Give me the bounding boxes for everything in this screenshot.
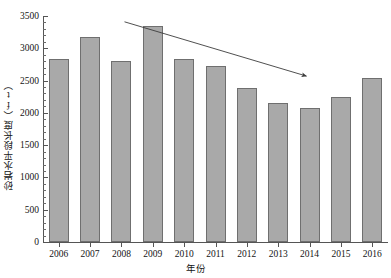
x-axis-tick bbox=[310, 243, 311, 247]
bar bbox=[362, 78, 382, 242]
x-axis-tick-label: 2011 bbox=[206, 249, 225, 259]
y-axis-minor-tick bbox=[43, 74, 46, 75]
x-axis-tick-label: 2008 bbox=[112, 249, 131, 259]
x-axis-tick bbox=[247, 243, 248, 247]
y-axis-minor-tick bbox=[43, 132, 46, 133]
bar bbox=[143, 26, 163, 242]
y-axis-minor-tick bbox=[43, 152, 46, 153]
bar bbox=[111, 61, 131, 242]
x-axis-tick bbox=[184, 243, 185, 247]
y-axis-tick-label: 3500 bbox=[20, 11, 39, 21]
x-axis-tick-label: 2016 bbox=[363, 249, 382, 259]
bar bbox=[268, 103, 288, 242]
y-axis-tick bbox=[43, 145, 48, 146]
x-axis-tick bbox=[278, 243, 279, 247]
bar bbox=[206, 66, 226, 242]
x-axis-tick bbox=[90, 243, 91, 247]
bar bbox=[80, 37, 100, 242]
bar bbox=[174, 59, 194, 242]
y-axis-minor-tick bbox=[43, 190, 46, 191]
y-axis-minor-tick bbox=[43, 68, 46, 69]
bar-chart: 砂岩水平段长度（ft） 0500100015002000250030003500… bbox=[0, 0, 391, 278]
y-axis-tick-label: 0 bbox=[34, 237, 39, 247]
y-axis-minor-tick bbox=[43, 165, 46, 166]
x-axis-tick-label: 2007 bbox=[81, 249, 100, 259]
x-axis-tick bbox=[153, 243, 154, 247]
y-axis-minor-tick bbox=[43, 93, 46, 94]
x-axis-tick bbox=[59, 243, 60, 247]
bar bbox=[331, 97, 351, 242]
x-axis-title: 年份 bbox=[0, 261, 391, 275]
y-axis-minor-tick bbox=[43, 61, 46, 62]
y-axis-tick-label: 2500 bbox=[20, 76, 39, 86]
x-axis-tick-label: 2012 bbox=[237, 249, 256, 259]
y-axis-minor-tick bbox=[43, 106, 46, 107]
x-axis-tick-label: 2015 bbox=[331, 249, 350, 259]
y-axis-tick-label: 1500 bbox=[20, 140, 39, 150]
y-axis-tick-label: 3000 bbox=[20, 43, 39, 53]
y-axis-minor-tick bbox=[43, 216, 46, 217]
x-axis-tick-label: 2006 bbox=[49, 249, 68, 259]
y-axis-minor-tick bbox=[43, 119, 46, 120]
y-axis-minor-tick bbox=[43, 42, 46, 43]
y-axis-minor-tick bbox=[43, 22, 46, 23]
y-axis-tick-label: 1000 bbox=[20, 172, 39, 182]
y-axis-minor-tick bbox=[43, 100, 46, 101]
y-axis-tick-label: 500 bbox=[25, 205, 39, 215]
x-axis-tick bbox=[341, 243, 342, 247]
x-axis-tick bbox=[372, 243, 373, 247]
y-axis-tick bbox=[43, 48, 48, 49]
x-axis-tick bbox=[216, 243, 217, 247]
y-axis-tick-labels: 0500100015002000250030003500 bbox=[0, 0, 39, 278]
y-axis-minor-tick bbox=[43, 184, 46, 185]
y-axis-tick bbox=[43, 210, 48, 211]
y-axis-tick bbox=[43, 81, 48, 82]
y-axis-minor-tick bbox=[43, 171, 46, 172]
bar bbox=[237, 88, 257, 242]
y-axis-tick bbox=[43, 242, 48, 243]
y-axis-minor-tick bbox=[43, 203, 46, 204]
x-axis-tick bbox=[121, 243, 122, 247]
y-axis-minor-tick bbox=[43, 197, 46, 198]
y-axis-minor-tick bbox=[43, 35, 46, 36]
y-axis-tick-label: 2000 bbox=[20, 108, 39, 118]
x-axis-tick-label: 2013 bbox=[269, 249, 288, 259]
y-axis-minor-tick bbox=[43, 87, 46, 88]
y-axis-tick bbox=[43, 177, 48, 178]
y-axis-minor-tick bbox=[43, 229, 46, 230]
y-axis-minor-tick bbox=[43, 29, 46, 30]
bar bbox=[49, 59, 69, 242]
x-axis-tick-label: 2009 bbox=[143, 249, 162, 259]
y-axis-minor-tick bbox=[43, 55, 46, 56]
y-axis-minor-tick bbox=[43, 158, 46, 159]
y-axis-minor-tick bbox=[43, 236, 46, 237]
x-axis-tick-label: 2014 bbox=[300, 249, 319, 259]
y-axis-minor-tick bbox=[43, 126, 46, 127]
y-axis-tick bbox=[43, 113, 48, 114]
y-axis-minor-tick bbox=[43, 223, 46, 224]
y-axis-minor-tick bbox=[43, 139, 46, 140]
bar bbox=[300, 108, 320, 242]
x-axis-tick-label: 2010 bbox=[175, 249, 194, 259]
plot-area bbox=[43, 16, 388, 242]
y-axis-tick bbox=[43, 16, 48, 17]
